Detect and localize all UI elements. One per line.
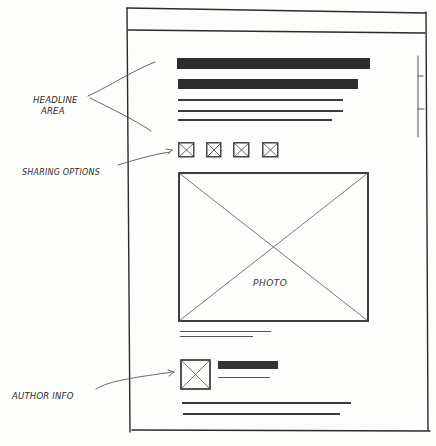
headline-bar-1 (177, 58, 370, 69)
caption-line-2 (180, 336, 253, 337)
annotation-headline-area: HEADLINE AREA (33, 95, 93, 117)
body-line-1 (182, 402, 351, 404)
author-avatar (180, 359, 211, 390)
summary-line-2 (178, 110, 343, 112)
body-line-2 (183, 413, 340, 415)
top-bar-divider (128, 30, 425, 33)
sharing-connector (118, 152, 170, 165)
caption-line-1 (180, 331, 271, 332)
author-arrowhead (168, 370, 174, 376)
frame-top (127, 8, 426, 13)
headline-connector-bottom (90, 98, 151, 131)
annotation-author-info: AUTHOR INFO (12, 391, 74, 402)
sharing-arrowhead (166, 149, 172, 154)
summary-line-3 (178, 119, 332, 121)
frame-bottom (132, 430, 430, 431)
frame-right (426, 12, 428, 430)
frame-left (127, 8, 130, 432)
author-name-bar (218, 361, 278, 369)
summary-line-1 (178, 99, 343, 101)
headline-bar-2 (178, 79, 358, 89)
share-icon-4[interactable] (262, 142, 279, 158)
author-subline (218, 377, 270, 378)
photo-label: PHOTO (253, 278, 287, 288)
author-connector (96, 372, 172, 389)
annotation-headline-line2: AREA (33, 106, 93, 117)
photo-placeholder (178, 172, 370, 323)
annotation-sharing-options: SHARING OPTIONS (22, 167, 100, 178)
headline-connector-top (88, 62, 155, 96)
share-icon-1[interactable] (178, 142, 195, 158)
share-icon-3[interactable] (233, 142, 250, 158)
annotation-headline-line1: HEADLINE (33, 95, 93, 106)
share-icon-2[interactable] (206, 142, 222, 158)
